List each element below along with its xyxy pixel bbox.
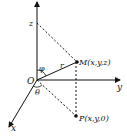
- y-axis-label: y: [116, 82, 123, 92]
- point-p: [74, 114, 78, 118]
- x-axis-label: x: [11, 123, 16, 133]
- x-axis: [9, 80, 37, 127]
- o-to-p-dashed: [37, 80, 76, 116]
- spherical-coordinates-diagram: z M(x,y,z) P(x,y,0) O r φ θ y x: [0, 0, 127, 138]
- p-label: P(x,y,0): [78, 114, 109, 123]
- radius-label: r: [60, 61, 65, 70]
- z-to-m-dashed: [37, 23, 77, 62]
- m-label: M(x,y,z): [78, 58, 111, 67]
- origin-label: O: [27, 76, 35, 86]
- theta-label: θ: [35, 88, 40, 97]
- phi-label: φ: [39, 64, 45, 73]
- z-mark-label: z: [28, 19, 34, 28]
